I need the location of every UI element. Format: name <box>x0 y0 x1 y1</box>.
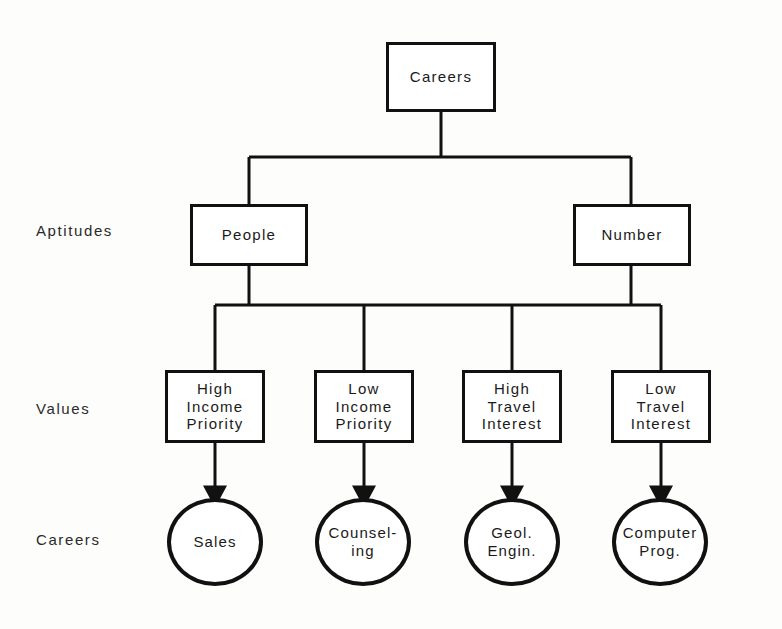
node-label-line: Computer <box>623 524 698 542</box>
node-label-line: Low <box>645 380 676 398</box>
node-label: Careers <box>410 68 472 86</box>
node-label-line: Income <box>187 398 244 416</box>
node-label-line: Low <box>348 380 379 398</box>
node-label-line: Prog. <box>639 542 680 560</box>
node-root-careers[interactable]: Careers <box>386 42 496 112</box>
node-value-low-travel-interest[interactable]: Low Travel Interest <box>611 370 711 443</box>
node-label-line: Travel <box>488 398 537 416</box>
row-label-aptitudes: Aptitudes <box>36 222 113 239</box>
node-label-line: Sales <box>193 533 236 551</box>
node-value-high-travel-interest[interactable]: High Travel Interest <box>462 370 562 443</box>
node-label-line: Engin. <box>487 542 536 560</box>
node-aptitude-number[interactable]: Number <box>573 204 691 266</box>
node-career-computer-programming[interactable]: Computer Prog. <box>612 498 708 586</box>
node-label-line: Counsel- <box>329 524 398 542</box>
node-label-line: High <box>197 380 233 398</box>
node-aptitude-people[interactable]: People <box>190 204 308 266</box>
node-label-line: Income <box>336 398 393 416</box>
node-label-line: Interest <box>631 415 691 433</box>
node-career-geological-engineering[interactable]: Geol. Engin. <box>464 498 560 586</box>
node-career-counseling[interactable]: Counsel- ing <box>315 498 411 586</box>
node-value-high-income-priority[interactable]: High Income Priority <box>165 370 265 443</box>
node-label: Number <box>601 226 662 244</box>
row-label-careers: Careers <box>36 531 101 548</box>
node-label: People <box>222 226 277 244</box>
node-label-line: High <box>494 380 530 398</box>
node-label-line: ing <box>351 542 374 560</box>
node-value-low-income-priority[interactable]: Low Income Priority <box>314 370 414 443</box>
node-label-line: Travel <box>637 398 686 416</box>
node-label-line: Interest <box>482 415 542 433</box>
node-label-line: Priority <box>335 415 392 433</box>
node-label-line: Priority <box>186 415 243 433</box>
row-label-values: Values <box>36 400 90 417</box>
diagram-canvas: Aptitudes Values Careers Careers People … <box>0 0 782 629</box>
node-career-sales[interactable]: Sales <box>167 498 263 586</box>
node-label-line: Geol. <box>491 524 532 542</box>
